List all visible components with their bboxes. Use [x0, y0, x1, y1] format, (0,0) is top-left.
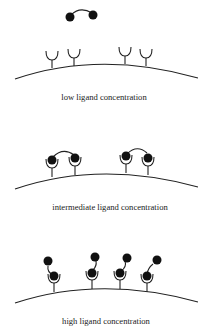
panel-intermediate: intermediate ligand concentration	[15, 149, 198, 212]
panel-low: low ligand concentration	[15, 10, 198, 102]
cell-membrane	[15, 64, 198, 79]
monovalent-bound-ligand-dimer	[44, 257, 59, 281]
caption-low: low ligand concentration	[61, 92, 147, 102]
receptor	[119, 47, 131, 64]
monovalent-bound-ligand-dimer	[143, 256, 162, 281]
receptor	[140, 49, 152, 66]
receptor	[68, 49, 80, 66]
crosslinking-ligand-dimer	[122, 149, 153, 163]
free-ligand-dimer	[66, 10, 98, 22]
ligand-receptor-diagram: low ligand concentration	[0, 0, 208, 331]
caption-high: high ligand concentration	[62, 316, 151, 326]
panel-high: high ligand concentration	[15, 253, 198, 327]
caption-intermediate: intermediate ligand concentration	[52, 202, 168, 212]
cell-membrane	[15, 174, 198, 189]
cell-membrane	[15, 289, 198, 303]
receptor	[46, 51, 58, 68]
monovalent-bound-ligand-dimer	[116, 254, 132, 278]
crosslinking-ligand-dimer	[48, 151, 80, 164]
